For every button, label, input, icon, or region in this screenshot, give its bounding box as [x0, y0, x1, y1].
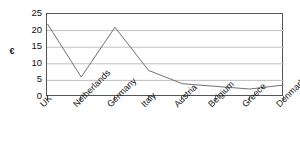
y-axis-tick-label: 5: [18, 74, 42, 84]
y-axis-tick-label: 10: [18, 58, 42, 68]
data-series-line: [48, 24, 284, 89]
y-axis-title: €: [5, 46, 19, 56]
y-axis-tick-label: 20: [18, 25, 42, 35]
plot-area: [46, 13, 283, 96]
y-axis-tick-labels: 0510152025: [18, 8, 42, 100]
chart-container: € 0510152025 UKNetherlandsGermanyItalyAu…: [0, 0, 300, 159]
y-axis-tick-label: 25: [18, 8, 42, 18]
gridlines: [47, 31, 284, 81]
x-axis-category-labels: UKNetherlandsGermanyItalyAustriaBelgiumG…: [0, 100, 300, 159]
plot-svg: [47, 14, 284, 97]
y-axis-tick-label: 15: [18, 41, 42, 51]
